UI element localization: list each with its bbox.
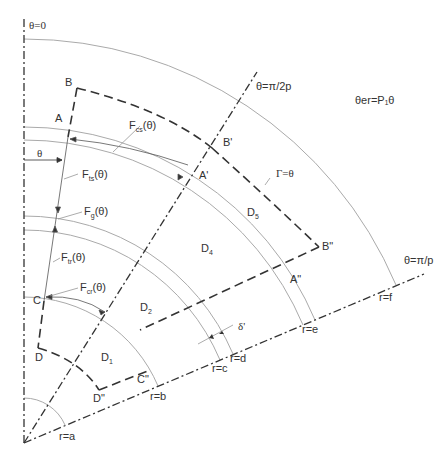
boundary-outer-2 — [212, 148, 319, 247]
label-delta-prime: δ' — [238, 320, 245, 332]
label-r-e: r=e — [302, 323, 318, 335]
point-B2: B" — [322, 240, 333, 252]
boundary-b-a — [68, 88, 77, 137]
point-A1: A' — [199, 169, 208, 181]
boundary-gamma — [38, 88, 319, 390]
label-theta-angle: θ — [37, 147, 42, 159]
boundary-b2-a2 — [140, 247, 319, 330]
radius-arcs — [24, 39, 396, 425]
force-arrows — [46, 137, 188, 315]
axis-lines — [24, 18, 424, 443]
label-r-d: r=d — [230, 352, 246, 364]
label-r-b: r=b — [150, 390, 166, 402]
region-D2: D2 — [140, 301, 152, 315]
leader-lines — [50, 126, 270, 344]
region-D4: D4 — [201, 242, 213, 256]
boundary-c-d — [38, 301, 44, 348]
point-B: B — [65, 76, 72, 88]
polar-sector-diagram: θ=0 θ=π/2p θ=π/p θer=P₁θ Γ=θ B A B' A' B… — [0, 0, 446, 461]
label-r-a: r=a — [59, 430, 76, 442]
region-D5: D5 — [247, 206, 259, 220]
point-C: C — [33, 294, 41, 306]
boundary-d-d2 — [38, 348, 99, 390]
point-A2: A" — [290, 273, 301, 285]
region-D1: D1 — [101, 351, 113, 365]
label-equation: θer=P₁θ — [355, 94, 395, 106]
label-theta-full: θ=π/p — [404, 254, 433, 266]
point-C2: C" — [137, 373, 149, 385]
force-Fcs: Fcs(θ) — [129, 119, 156, 133]
force-Fts: Fts(θ) — [82, 168, 108, 182]
point-A: A — [55, 112, 63, 124]
force-Fg: Fg(θ) — [84, 205, 108, 220]
point-D2: D" — [93, 392, 105, 404]
point-D: D — [35, 351, 43, 363]
label-theta-half: θ=π/2p — [256, 80, 291, 92]
force-Fcr: Fcr(θ) — [80, 281, 106, 295]
label-gamma: Γ=θ — [276, 167, 294, 179]
label-theta-zero: θ=0 — [29, 19, 46, 31]
force-Ftr: Ftr(θ) — [61, 251, 85, 265]
label-r-f: r=f — [379, 291, 393, 303]
theta-angle-arrow — [24, 158, 62, 163]
label-r-c: r=c — [212, 362, 228, 374]
axis-theta-full — [24, 274, 424, 443]
point-B1: B' — [223, 136, 232, 148]
arc-r-d — [24, 216, 233, 354]
